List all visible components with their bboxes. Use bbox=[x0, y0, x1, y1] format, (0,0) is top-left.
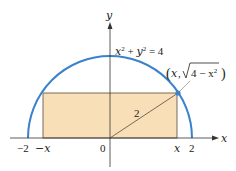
x-axis-arrow-icon bbox=[212, 136, 219, 141]
semicircle-rectangle-diagram: y x x2 + y2 = 4 ( x , 4 − x2 ) 2 −2 −x 0… bbox=[0, 0, 236, 171]
svg-text:4 − x2: 4 − x2 bbox=[191, 67, 218, 79]
x-axis-label: x bbox=[221, 132, 228, 145]
tick-label-neg-two: −2 bbox=[17, 142, 29, 154]
svg-text:): ) bbox=[221, 66, 226, 82]
point-marker bbox=[175, 90, 180, 95]
tick-label-x: x bbox=[174, 142, 181, 155]
tick-label-origin: 0 bbox=[100, 142, 106, 154]
tick-label-two: 2 bbox=[189, 142, 195, 154]
y-axis-label: y bbox=[105, 9, 113, 22]
svg-text:,: , bbox=[178, 67, 181, 79]
radius-label: 2 bbox=[134, 107, 140, 119]
y-axis-arrow-icon bbox=[108, 22, 113, 29]
tick-label-neg-x: −x bbox=[35, 142, 51, 155]
svg-text:x: x bbox=[171, 67, 178, 80]
point-label: ( x , 4 − x2 ) bbox=[166, 63, 226, 82]
